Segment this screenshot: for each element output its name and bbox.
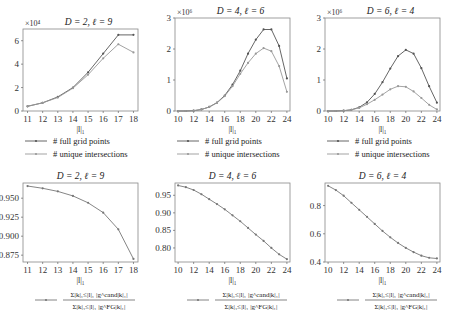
- data-point: [208, 106, 210, 108]
- figure-canvas: D = 2, ℓ = 9×10⁴11121314151617180246|l|₁…: [0, 0, 455, 330]
- data-point: [278, 253, 280, 255]
- data-point: [132, 258, 134, 260]
- x-tick-label: 12: [189, 114, 198, 124]
- data-point: [397, 242, 399, 244]
- legend-label-full: # full grid points: [355, 136, 412, 146]
- data-point: [397, 85, 399, 87]
- data-point: [224, 208, 226, 210]
- legend: Σ|k|₁≤|l|₁ |g^cand|k|₁|Σ|k|₁≤|l|₁ |g^FG|…: [187, 291, 287, 311]
- data-point: [412, 90, 414, 92]
- y-multiplier: ×10⁶: [327, 8, 343, 17]
- series-line: [28, 44, 134, 106]
- data-point: [270, 28, 272, 30]
- legend-denominator: Σ|k|₁≤|l|₁ |g^FG|k|₁|: [375, 303, 428, 311]
- data-point: [286, 77, 288, 79]
- legend: Σ|k|₁≤|l|₁ |g^cand|k|₁|Σ|k|₁≤|l|₁ |g^FG|…: [337, 291, 437, 311]
- data-point: [87, 202, 89, 204]
- x-tick-label: 12: [189, 265, 198, 275]
- data-point: [57, 96, 59, 98]
- series-line: [178, 30, 287, 112]
- data-point: [117, 43, 119, 45]
- y-tick-label: 0.950: [0, 193, 20, 203]
- x-axis-label: |l|₁: [378, 276, 386, 285]
- x-tick-label: 14: [205, 265, 215, 275]
- x-tick-label: 18: [129, 114, 139, 124]
- data-point: [436, 102, 438, 104]
- data-point: [185, 186, 187, 188]
- plot-frame: [23, 29, 138, 111]
- x-axis-label: |l|₁: [228, 276, 236, 285]
- y-tick-label: 0.4: [310, 257, 322, 267]
- data-point: [247, 53, 249, 55]
- y-multiplier: ×10⁴: [25, 19, 41, 28]
- data-point: [239, 73, 241, 75]
- y-tick-label: 0.6: [310, 229, 322, 239]
- x-tick-label: 15: [84, 114, 94, 124]
- data-point: [231, 214, 233, 216]
- plot-frame: [325, 18, 440, 111]
- y-tick-label: 0.8: [310, 201, 322, 211]
- y-tick-label: 2: [317, 44, 322, 54]
- series-line: [28, 35, 134, 106]
- x-tick-label: 17: [114, 265, 124, 275]
- data-point: [262, 240, 264, 242]
- plot-title: D = 6, ℓ = 4: [366, 6, 415, 16]
- data-point: [428, 104, 430, 106]
- data-point: [389, 88, 391, 90]
- data-point: [381, 230, 383, 232]
- x-tick-label: 10: [174, 265, 184, 275]
- x-tick-label: 13: [53, 114, 63, 124]
- data-point: [270, 50, 272, 52]
- data-point: [405, 247, 407, 249]
- data-point: [177, 184, 179, 186]
- data-point: [428, 85, 430, 87]
- data-point: [102, 212, 104, 214]
- data-point: [239, 220, 241, 222]
- x-axis-label: |l|₁: [228, 125, 236, 134]
- plot-d4-counts: D = 4, ℓ = 6×10⁶10121416182022240123|l|₁…: [167, 6, 292, 159]
- data-point: [335, 189, 337, 191]
- y-tick-label: 0.90: [155, 208, 171, 218]
- data-point: [270, 247, 272, 249]
- x-tick-label: 18: [386, 114, 396, 124]
- data-point: [102, 57, 104, 59]
- data-point: [374, 93, 376, 95]
- x-tick-label: 12: [339, 114, 348, 124]
- x-tick-label: 14: [355, 265, 365, 275]
- data-point: [216, 102, 218, 104]
- data-point: [366, 216, 368, 218]
- plot-d4-ratio: D = 4, ℓ = 610121416182022240.800.850.90…: [155, 171, 292, 311]
- data-point: [366, 103, 368, 105]
- data-point: [216, 203, 218, 205]
- data-point: [185, 110, 187, 112]
- x-tick-label: 24: [432, 114, 442, 124]
- y-tick-label: 0: [317, 106, 322, 116]
- x-tick-label: 18: [129, 265, 139, 275]
- x-tick-label: 22: [417, 114, 426, 124]
- y-tick-label: 2: [167, 44, 172, 54]
- y-tick-label: 0: [15, 106, 20, 116]
- data-point: [327, 185, 329, 187]
- data-point: [42, 187, 44, 189]
- x-tick-label: 22: [267, 265, 276, 275]
- data-point: [177, 110, 179, 112]
- x-tick-label: 11: [23, 265, 32, 275]
- data-point: [350, 109, 352, 111]
- data-point: [327, 110, 329, 112]
- data-point: [247, 62, 249, 64]
- x-tick-label: 10: [324, 114, 334, 124]
- x-tick-label: 16: [220, 114, 230, 124]
- x-tick-label: 18: [386, 265, 396, 275]
- x-tick-label: 20: [251, 265, 261, 275]
- x-tick-label: 16: [370, 114, 380, 124]
- x-tick-label: 10: [324, 265, 334, 275]
- data-point: [278, 65, 280, 67]
- data-point: [26, 185, 28, 187]
- data-point: [286, 258, 288, 260]
- data-point: [255, 39, 257, 41]
- data-point: [231, 85, 233, 87]
- plot-frame: [23, 183, 138, 262]
- data-point: [193, 110, 195, 112]
- plot-d6-ratio: D = 6, ℓ = 410121416182022240.40.60.8|l|…: [310, 171, 442, 311]
- legend-label-unique: # unique intersections: [53, 149, 128, 159]
